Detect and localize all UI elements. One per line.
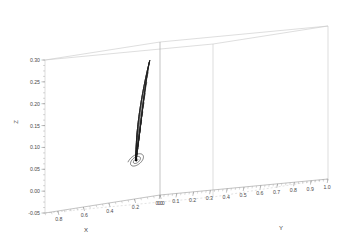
x-minor-tick	[96, 205, 97, 207]
x-axis-title: X	[84, 227, 88, 233]
box-edge-floor-back-x	[45, 197, 213, 213]
y-tick-label: 0.1	[172, 198, 179, 204]
z-tick-label: 0.25	[30, 79, 40, 85]
x-tick-label: 0.6	[81, 212, 88, 218]
y-tick-label: 0.9	[307, 186, 314, 192]
y-axis-title: Y	[279, 225, 283, 231]
x-minor-tick	[154, 196, 155, 198]
x-tick-label: 0.8	[55, 216, 62, 222]
z-tick-label: -0.05	[28, 210, 40, 216]
x-minor-tick	[58, 211, 59, 213]
x-minor-tick	[109, 203, 110, 205]
x-minor-tick	[64, 210, 65, 212]
z-axis-title: Z	[13, 120, 19, 124]
box-edge-top-x	[45, 42, 160, 60]
y-tick-label: 0.6	[256, 190, 263, 196]
y-tick-label: 1.0	[323, 184, 330, 190]
x-minor-tick	[128, 200, 129, 202]
axes-group: 0.300.250.200.150.100.050.00-0.05Z0.00.2…	[13, 57, 331, 233]
z-tick-label: 0.05	[30, 166, 40, 172]
y-tick-label: 0.8	[290, 187, 297, 193]
x-tick-label: 0.2	[132, 204, 139, 210]
x-minor-tick	[134, 199, 135, 201]
x-minor-tick	[90, 206, 91, 208]
y-tick-label: 0.7	[273, 189, 280, 195]
x-tick-label: 0.4	[106, 208, 113, 214]
y-tick-label: 0.4	[223, 194, 230, 200]
y-tick-label: 0.2	[189, 197, 196, 203]
x-minor-tick	[71, 209, 72, 211]
z-tick-label: 0.10	[30, 144, 40, 150]
x-minor-tick	[83, 207, 84, 209]
y-tick-label: 0.0	[155, 200, 162, 206]
box-edge-top-far-x	[213, 26, 328, 44]
trajectory-group	[128, 61, 150, 167]
y-tick-label: 0.3	[206, 195, 213, 201]
box-edge-top-y	[160, 26, 328, 42]
x-minor-tick	[122, 201, 123, 203]
x-minor-tick	[147, 197, 148, 199]
x-minor-tick	[51, 212, 52, 214]
box-edge-top-far-y	[45, 44, 213, 60]
x-minor-tick	[103, 204, 104, 206]
x-minor-tick	[45, 213, 46, 215]
z-tick-label: 0.30	[30, 57, 40, 63]
phase-space-3d-plot: 0.300.250.200.150.100.050.00-0.05Z0.00.2…	[0, 0, 345, 247]
x-minor-tick	[141, 198, 142, 200]
z-tick-label: 0.00	[30, 188, 40, 194]
box-front-edges	[45, 42, 328, 213]
y-tick-label: 0.5	[239, 192, 246, 198]
z-tick-label: 0.20	[30, 101, 40, 107]
plot-container: 0.300.250.200.150.100.050.00-0.05Z0.00.2…	[0, 0, 345, 247]
x-minor-tick	[115, 202, 116, 204]
z-tick-label: 0.15	[30, 123, 40, 129]
